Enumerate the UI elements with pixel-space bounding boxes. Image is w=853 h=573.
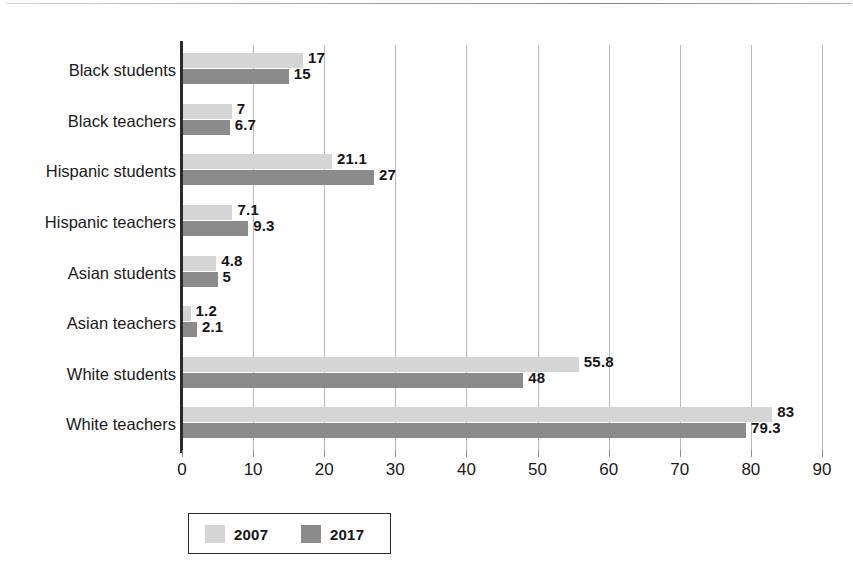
x-tick (680, 450, 681, 457)
x-tick (395, 450, 396, 457)
x-tick (466, 450, 467, 457)
x-tick (324, 450, 325, 457)
x-tick-label: 50 (528, 460, 547, 480)
bar-2007 (182, 53, 303, 68)
category-label: Asian teachers (0, 298, 176, 349)
gridline-90 (822, 45, 823, 450)
bar-group: 21.127 (182, 146, 822, 197)
bar-2007 (182, 154, 332, 169)
bar-2007 (182, 306, 191, 321)
bar-2017 (182, 373, 523, 388)
x-tick-label: 60 (599, 460, 618, 480)
y-axis-line (180, 41, 183, 453)
category-label: Hispanic teachers (0, 197, 176, 248)
bar-value-label: 7.1 (237, 201, 258, 218)
category-label: Asian students (0, 248, 176, 299)
bar-2017 (182, 69, 289, 84)
legend-item[interactable]: 2007 (205, 523, 268, 545)
bar-value-label: 4.8 (221, 252, 242, 269)
x-tick-label: 70 (670, 460, 689, 480)
x-tick-label: 0 (177, 460, 186, 480)
category-label: White teachers (0, 399, 176, 450)
bar-2017 (182, 272, 218, 287)
chart-legend: 20072017 (188, 513, 391, 554)
bar-2017 (182, 221, 248, 236)
bar-group: 76.7 (182, 96, 822, 147)
bar-value-label: 15 (294, 65, 311, 82)
x-tick-label: 80 (741, 460, 760, 480)
plot-area: 171576.721.1277.19.34.851.22.155.8488379… (182, 45, 822, 450)
bar-value-label: 6.7 (235, 116, 256, 133)
x-tick-label: 90 (813, 460, 832, 480)
bar-group: 4.85 (182, 248, 822, 299)
x-tick (822, 450, 823, 457)
bar-2007 (182, 256, 216, 271)
x-tick-label: 30 (386, 460, 405, 480)
category-label: Hispanic students (0, 146, 176, 197)
bar-group: 55.848 (182, 349, 822, 400)
x-tick (253, 450, 254, 457)
bar-value-label: 21.1 (337, 150, 367, 167)
legend-item[interactable]: 2017 (301, 523, 364, 545)
bar-2017 (182, 322, 197, 337)
legend-swatch-icon (301, 525, 321, 543)
x-tick (751, 450, 752, 457)
x-tick (182, 450, 183, 457)
bar-value-label: 17 (308, 49, 325, 66)
bar-2007 (182, 407, 772, 422)
bar-value-label: 48 (528, 369, 545, 386)
bar-2017 (182, 170, 374, 185)
bar-group: 1.22.1 (182, 298, 822, 349)
category-label: White students (0, 349, 176, 400)
bar-value-label: 2.1 (202, 318, 223, 335)
bar-group: 8379.3 (182, 399, 822, 450)
x-tick-label: 10 (244, 460, 263, 480)
bar-value-label: 9.3 (253, 217, 274, 234)
bar-value-label: 55.8 (584, 353, 614, 370)
x-tick (609, 450, 610, 457)
x-tick (538, 450, 539, 457)
category-axis-labels: Black studentsBlack teachersHispanic stu… (0, 45, 176, 450)
bar-2007 (182, 104, 232, 119)
grouped-bar-chart: Black studentsBlack teachersHispanic stu… (0, 0, 853, 573)
bar-2007 (182, 357, 579, 372)
x-tick-label: 20 (315, 460, 334, 480)
legend-swatch-icon (205, 525, 225, 543)
bar-value-label: 1.2 (196, 302, 217, 319)
bar-2007 (182, 205, 232, 220)
x-axis: 0102030405060708090 (182, 450, 822, 490)
bar-2017 (182, 423, 746, 438)
legend-label: 2007 (234, 526, 268, 543)
bar-value-label: 79.3 (751, 419, 781, 436)
bar-group: 7.19.3 (182, 197, 822, 248)
category-label: Black teachers (0, 96, 176, 147)
bar-2017 (182, 120, 230, 135)
bar-value-label: 27 (379, 166, 396, 183)
bar-value-label: 83 (777, 403, 794, 420)
legend-label: 2017 (330, 526, 364, 543)
bar-value-label: 7 (237, 100, 246, 117)
bar-group: 1715 (182, 45, 822, 96)
bar-value-label: 5 (223, 268, 232, 285)
category-label: Black students (0, 45, 176, 96)
x-tick-label: 40 (457, 460, 476, 480)
